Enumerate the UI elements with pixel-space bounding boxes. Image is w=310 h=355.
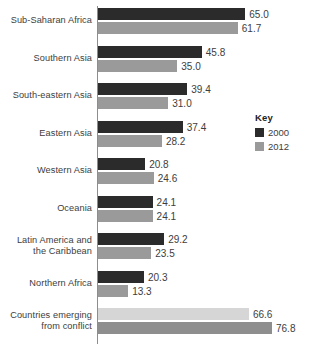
bar-value-2000: 37.4 bbox=[187, 122, 206, 134]
bar-value-2000: 45.8 bbox=[206, 47, 225, 59]
bar-chart: Sub-Saharan Africa65.061.7Southern Asia4… bbox=[0, 0, 310, 355]
bar-2012 bbox=[98, 172, 154, 184]
bar-2012 bbox=[98, 210, 153, 222]
legend-label-2012: 2012 bbox=[268, 141, 289, 152]
bar-2000 bbox=[98, 46, 202, 58]
category-label-line: Northern Africa bbox=[0, 278, 92, 290]
bar-2012 bbox=[98, 285, 128, 297]
bar-value-2012: 76.8 bbox=[276, 323, 295, 335]
bar-2012 bbox=[98, 22, 238, 34]
bar-2000 bbox=[98, 83, 187, 95]
bar-2012 bbox=[98, 247, 151, 259]
bar-value-2000: 20.3 bbox=[148, 272, 167, 284]
category-label-line: Western Asia bbox=[0, 165, 92, 177]
legend-swatch-2000 bbox=[255, 128, 264, 137]
category-label-line: South-eastern Asia bbox=[0, 90, 92, 102]
chart-legend: Key 2000 2012 bbox=[255, 112, 307, 155]
bar-value-2012: 28.2 bbox=[166, 136, 185, 148]
category-label-line: from conflict bbox=[0, 321, 92, 333]
bar-2000 bbox=[98, 271, 144, 283]
category-label: Eastern Asia bbox=[0, 128, 92, 140]
bar-2000 bbox=[98, 158, 145, 170]
category-label-line: Oceania bbox=[0, 203, 92, 215]
bar-value-2012: 61.7 bbox=[242, 23, 261, 35]
category-label-line: the Caribbean bbox=[0, 246, 92, 258]
bar-value-2012: 31.0 bbox=[172, 98, 191, 110]
bar-2012 bbox=[98, 60, 177, 72]
legend-label-2000: 2000 bbox=[268, 127, 289, 138]
bar-2012 bbox=[98, 97, 168, 109]
bar-value-2012: 24.1 bbox=[157, 211, 176, 223]
bar-value-2012: 13.3 bbox=[132, 286, 151, 298]
bar-value-2000: 66.6 bbox=[253, 309, 272, 321]
category-label: Latin America andthe Caribbean bbox=[0, 235, 92, 258]
bar-value-2000: 29.2 bbox=[168, 234, 187, 246]
legend-swatch-2012 bbox=[255, 142, 264, 151]
category-label: Northern Africa bbox=[0, 278, 92, 290]
bar-value-2012: 23.5 bbox=[155, 248, 174, 260]
bar-2000 bbox=[98, 196, 153, 208]
legend-item-2012: 2012 bbox=[255, 141, 307, 152]
category-label-line: Sub-Saharan Africa bbox=[0, 15, 92, 27]
category-label-line: Latin America and bbox=[0, 235, 92, 247]
category-label: Oceania bbox=[0, 203, 92, 215]
bar-value-2000: 20.8 bbox=[149, 159, 168, 171]
bar-value-2000: 24.1 bbox=[157, 197, 176, 209]
legend-item-2000: 2000 bbox=[255, 127, 307, 138]
bar-2012 bbox=[98, 135, 162, 147]
bar-value-2000: 65.0 bbox=[249, 9, 268, 21]
legend-title: Key bbox=[255, 112, 307, 123]
bar-2000 bbox=[98, 121, 183, 133]
category-label: Southern Asia bbox=[0, 53, 92, 65]
bar-2000 bbox=[98, 8, 245, 20]
category-label-line: Countries emerging bbox=[0, 310, 92, 322]
category-label-line: Southern Asia bbox=[0, 53, 92, 65]
bar-value-2012: 24.6 bbox=[158, 173, 177, 185]
bar-value-2000: 39.4 bbox=[191, 84, 210, 96]
category-label-line: Eastern Asia bbox=[0, 128, 92, 140]
category-label: Western Asia bbox=[0, 165, 92, 177]
bar-2012 bbox=[98, 322, 272, 334]
category-label: South-eastern Asia bbox=[0, 90, 92, 102]
category-label: Sub-Saharan Africa bbox=[0, 15, 92, 27]
category-label: Countries emergingfrom conflict bbox=[0, 310, 92, 333]
bar-2000 bbox=[98, 233, 164, 245]
bar-value-2012: 35.0 bbox=[181, 61, 200, 73]
bar-2000 bbox=[98, 308, 249, 320]
